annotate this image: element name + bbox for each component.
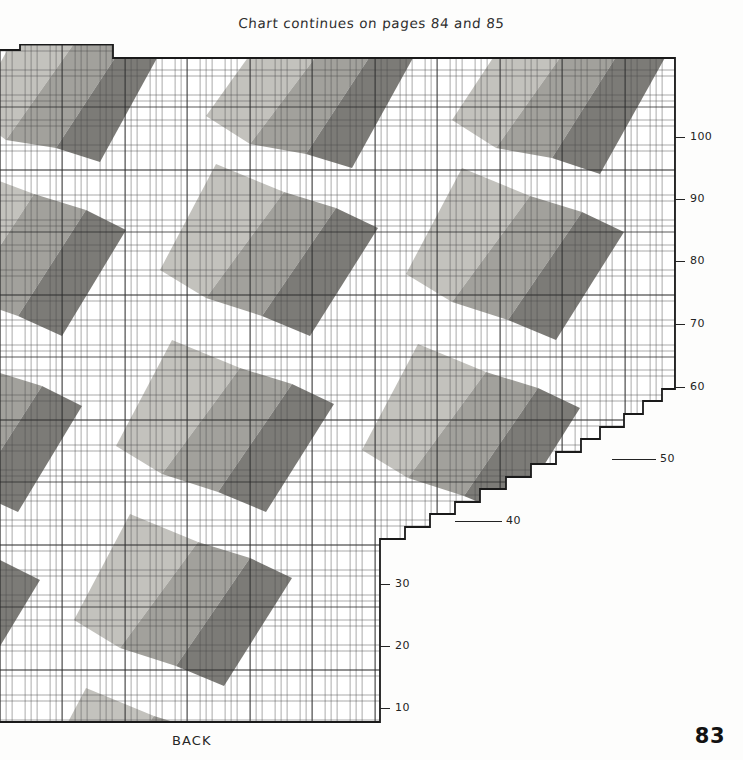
row-tick-90 bbox=[675, 199, 685, 200]
row-label-30: 30 bbox=[395, 577, 410, 590]
row-label-90: 90 bbox=[690, 192, 705, 205]
row-label-80: 80 bbox=[690, 254, 705, 267]
row-leader-50 bbox=[612, 459, 656, 460]
motif-band-dark bbox=[0, 560, 40, 686]
back-piece-label: BACK bbox=[172, 733, 212, 748]
row-tick-100 bbox=[675, 137, 685, 138]
pattern-motif-layer bbox=[0, 44, 675, 724]
row-tick-80 bbox=[675, 261, 685, 262]
chart-grid-area bbox=[0, 44, 675, 724]
row-label-40: 40 bbox=[506, 514, 521, 527]
knitting-chart: 100908070605040302010 bbox=[0, 44, 743, 726]
chart-continuation-note: Chart continues on pages 84 and 85 bbox=[0, 15, 743, 31]
motif-bands bbox=[0, 44, 675, 724]
row-tick-10 bbox=[380, 708, 390, 709]
row-tick-20 bbox=[380, 646, 390, 647]
row-label-50: 50 bbox=[660, 452, 675, 465]
row-label-70: 70 bbox=[690, 317, 705, 330]
row-label-20: 20 bbox=[395, 639, 410, 652]
row-label-60: 60 bbox=[690, 380, 705, 393]
row-tick-30 bbox=[380, 584, 390, 585]
row-tick-70 bbox=[675, 324, 685, 325]
row-label-10: 10 bbox=[395, 701, 410, 714]
row-label-100: 100 bbox=[690, 130, 712, 143]
motif-band-light bbox=[30, 688, 154, 724]
page-number: 83 bbox=[695, 724, 725, 748]
row-leader-40 bbox=[455, 521, 502, 522]
row-tick-60 bbox=[675, 387, 685, 388]
chart-page: Chart continues on pages 84 and 85 10090… bbox=[0, 0, 743, 760]
